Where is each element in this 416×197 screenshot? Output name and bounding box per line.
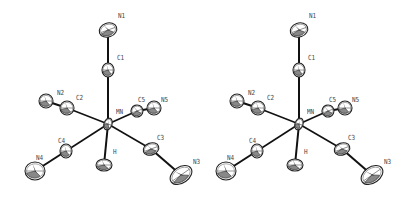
bond-mn-c3 bbox=[299, 124, 342, 149]
atom-h bbox=[287, 159, 303, 171]
atom-h bbox=[96, 159, 112, 171]
atom-label-n2: N2 bbox=[248, 90, 255, 97]
bond-mn-c4 bbox=[257, 124, 299, 151]
atom-n5 bbox=[338, 101, 352, 115]
atom-n2 bbox=[230, 94, 244, 108]
atom-c5 bbox=[129, 103, 144, 118]
atom-label-n3: N3 bbox=[384, 159, 391, 166]
atom-label-n1: N1 bbox=[309, 13, 316, 20]
atom-c1 bbox=[102, 63, 114, 77]
atom-c2 bbox=[60, 101, 74, 115]
atom-label-n2: N2 bbox=[57, 90, 64, 97]
atom-c4 bbox=[251, 144, 263, 158]
atom-label-c3: C3 bbox=[348, 135, 355, 142]
atom-label-mn: MN bbox=[307, 109, 314, 116]
atom-label-c2: C2 bbox=[267, 95, 274, 102]
atom-mn bbox=[293, 117, 305, 131]
atom-label-n1: N1 bbox=[118, 13, 125, 20]
atom-label-h: H bbox=[113, 149, 117, 156]
atom-label-c2: C2 bbox=[76, 95, 83, 102]
left-view: N1C1C2N2MNC5N5C4N4HC3N3 bbox=[0, 0, 208, 197]
stereo-ortep-figure: N1C1C2N2MNC5N5C4N4HC3N3 N1C1C2N2MNC5N5C4… bbox=[0, 0, 416, 197]
atom-label-n4: N4 bbox=[227, 155, 234, 162]
atom-n5 bbox=[147, 101, 161, 115]
atom-label-n5: N5 bbox=[161, 97, 168, 104]
atom-label-c3: C3 bbox=[157, 135, 164, 142]
atom-label-c1: C1 bbox=[308, 55, 315, 62]
atom-label-c4: C4 bbox=[249, 138, 256, 145]
atom-c4 bbox=[60, 144, 72, 158]
atom-n1 bbox=[288, 20, 310, 39]
atom-label-c4: C4 bbox=[58, 138, 65, 145]
right-view: N1C1C2N2MNC5N5C4N4HC3N3 bbox=[191, 0, 399, 197]
atom-label-c5: C5 bbox=[138, 97, 145, 104]
atom-label-c1: C1 bbox=[117, 55, 124, 62]
atom-label-n4: N4 bbox=[36, 155, 43, 162]
atom-c5 bbox=[320, 103, 335, 118]
atom-c2 bbox=[251, 101, 265, 115]
bond-mn-c4 bbox=[66, 124, 108, 151]
bond-mn-c3 bbox=[108, 124, 151, 149]
atom-n4 bbox=[25, 162, 45, 180]
atom-label-mn: MN bbox=[116, 109, 123, 116]
atom-c1 bbox=[293, 63, 305, 77]
atom-label-h: H bbox=[304, 149, 308, 156]
atom-n1 bbox=[97, 20, 119, 39]
atom-label-c5: C5 bbox=[329, 97, 336, 104]
atom-label-n5: N5 bbox=[352, 97, 359, 104]
molecule-drawing bbox=[191, 0, 416, 197]
atom-n4 bbox=[216, 162, 236, 180]
atom-n2 bbox=[39, 94, 53, 108]
atom-mn bbox=[102, 117, 114, 131]
